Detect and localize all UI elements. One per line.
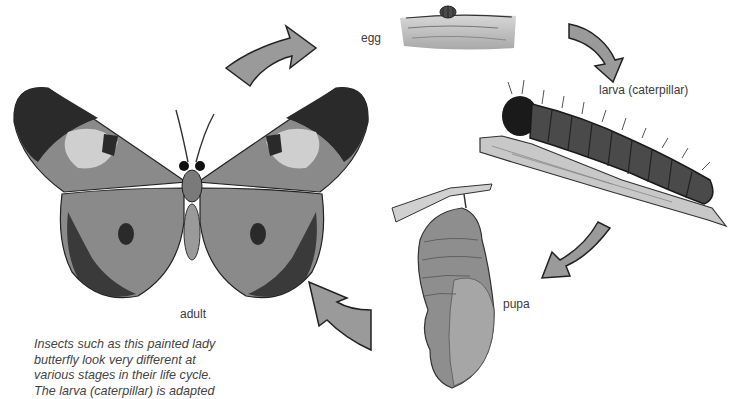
egg-illustration xyxy=(398,0,518,55)
label-larva: larva (caterpillar) xyxy=(599,83,688,97)
caption-line: butterfly look very different at xyxy=(34,353,274,369)
pupa-illustration xyxy=(390,180,510,397)
figure-caption: Insects such as this painted lady butter… xyxy=(34,337,274,399)
arrow-egg-to-larva-icon xyxy=(565,18,635,84)
chrysalis-icon xyxy=(418,208,494,388)
label-adult: adult xyxy=(180,307,206,321)
larva-illustration xyxy=(472,80,727,230)
caption-line: various stages in their life cycle. xyxy=(34,368,274,384)
butterfly-icon xyxy=(14,88,368,298)
label-pupa: pupa xyxy=(503,297,530,311)
caption-line: Insects such as this painted lady xyxy=(34,337,274,353)
adult-butterfly-illustration xyxy=(8,82,376,307)
arrow-adult-to-egg-icon xyxy=(220,20,320,90)
label-egg: egg xyxy=(361,31,381,45)
caption-line: The larva (caterpillar) is adapted xyxy=(34,384,274,399)
